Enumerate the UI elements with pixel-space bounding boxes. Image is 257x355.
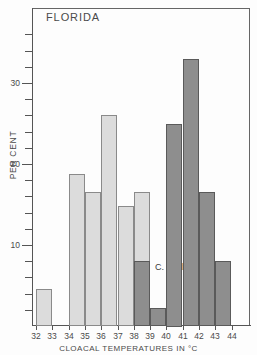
y-axis-tick-minor (25, 67, 32, 68)
y-axis-tick-label: 30 (4, 78, 20, 88)
x-axis-tick-label: 43 (207, 331, 223, 341)
x-axis-tick-label: 36 (93, 331, 109, 341)
y-axis-tick-minor (25, 132, 32, 133)
chart-figure: FLORIDA PER CENT 102030 3233343536373839… (0, 0, 257, 355)
y-axis-tick-minor (25, 261, 32, 262)
y-axis-tick-minor (25, 99, 32, 100)
x-axis-title: CLOACAL TEMPERATURES IN °C (0, 344, 257, 353)
y-axis-tick-minor (25, 148, 32, 149)
chart-title: FLORIDA (46, 11, 100, 23)
y-axis-tick-major (22, 83, 32, 84)
x-axis-tick-label: 33 (44, 331, 60, 341)
x-axis-tick (215, 326, 216, 330)
x-axis-tick (183, 326, 184, 330)
y-axis-tick-minor (25, 115, 32, 116)
x-axis-tick (232, 326, 233, 330)
x-axis-tick (150, 326, 151, 330)
bar (69, 174, 85, 326)
y-axis-tick-label: 10 (4, 240, 20, 250)
y-axis-tick-minor (25, 51, 32, 52)
bar (166, 124, 182, 327)
x-axis-tick-label: 39 (142, 331, 158, 341)
y-axis-tick-major (22, 245, 32, 246)
x-axis-tick (101, 326, 102, 330)
y-axis-tick-minor (25, 213, 32, 214)
y-axis-line (32, 8, 33, 326)
bar (85, 192, 101, 326)
bar (199, 192, 215, 326)
x-axis-tick (199, 326, 200, 330)
y-axis-tick-minor (25, 310, 32, 311)
y-axis-tick-minor (25, 294, 32, 295)
bar (101, 115, 117, 326)
x-axis-tick (69, 326, 70, 330)
y-axis-tick-minor (25, 180, 32, 181)
y-axis-tick-major (22, 164, 32, 165)
bar (118, 206, 134, 326)
y-axis-tick-label: 20 (4, 159, 20, 169)
y-axis-title: PER CENT (8, 125, 18, 185)
x-axis-tick-label: 34 (61, 331, 77, 341)
x-axis-tick-label: 35 (77, 331, 93, 341)
bar (134, 261, 150, 326)
x-axis-tick-label: 37 (110, 331, 126, 341)
bar (215, 261, 231, 326)
bar (150, 308, 166, 326)
y-axis-tick-minor (25, 196, 32, 197)
y-axis-tick-minor (25, 34, 32, 35)
bar (36, 289, 52, 326)
x-axis-tick (85, 326, 86, 330)
x-axis-tick (134, 326, 135, 330)
x-axis-tick (118, 326, 119, 330)
y-axis-tick-minor (25, 229, 32, 230)
x-axis-tick-label: 41 (175, 331, 191, 341)
x-axis-tick (36, 326, 37, 330)
x-axis-tick-label: 40 (158, 331, 174, 341)
x-axis-tick-label: 38 (126, 331, 142, 341)
x-axis-tick-label: 32 (28, 331, 44, 341)
bar (183, 59, 199, 326)
x-axis-tick (52, 326, 53, 330)
x-axis-tick-label: 42 (191, 331, 207, 341)
x-axis-tick-label: 44 (224, 331, 240, 341)
y-axis-tick-minor (25, 277, 32, 278)
